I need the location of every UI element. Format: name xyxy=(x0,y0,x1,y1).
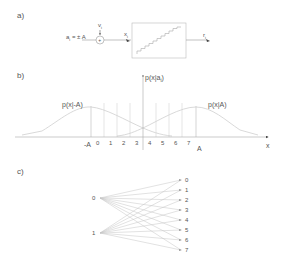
svg-text:ri: ri xyxy=(203,32,206,40)
transition-edges xyxy=(100,180,181,250)
panel-c-label: c) xyxy=(17,167,24,176)
svg-text:p(x|ai): p(x|ai) xyxy=(145,74,164,83)
output-node-5: 5 xyxy=(185,227,189,233)
svg-text:5: 5 xyxy=(161,140,165,146)
svg-text:3: 3 xyxy=(135,140,139,146)
y-axis-arrow-icon xyxy=(142,75,144,77)
svg-text:0: 0 xyxy=(96,140,100,146)
output-nodes: 0 1 2 3 4 5 6 7 xyxy=(185,177,189,253)
svg-text:1: 1 xyxy=(109,140,113,146)
panel-b: b) p(x|ai) p(x|-A) p(x|A) -A A x 0 1 xyxy=(15,71,270,152)
staircase-icon xyxy=(137,27,181,54)
output-label: ri xyxy=(203,32,206,40)
output-node-1: 1 xyxy=(185,187,189,193)
x-label: xi xyxy=(124,31,128,39)
input-node-0: 0 xyxy=(92,195,96,201)
svg-text:2: 2 xyxy=(122,140,126,146)
sum-symbol: + xyxy=(98,37,101,43)
x-axis-label: x xyxy=(266,142,270,149)
curve-p-x-given-A xyxy=(117,107,258,136)
curve-p-x-given-neg-A xyxy=(22,107,172,136)
noise-label: vi xyxy=(98,22,102,30)
panel-a: a) ai = ± A vi + xi ri xyxy=(17,11,210,58)
pos-A-label: A xyxy=(197,145,202,152)
neg-A-label: -A xyxy=(84,141,91,148)
y-axis-label: p(x|ai) xyxy=(145,74,164,83)
panel-b-label: b) xyxy=(17,71,24,80)
output-node-3: 3 xyxy=(185,207,189,213)
svg-text:xi: xi xyxy=(124,31,128,39)
right-curve-label: p(x|A) xyxy=(208,101,227,109)
output-node-2: 2 xyxy=(185,197,189,203)
output-node-0: 0 xyxy=(185,177,189,183)
panel-c: c) 0 1 xyxy=(17,167,189,253)
svg-text:ai = ± A: ai = ± A xyxy=(66,34,86,42)
output-node-6: 6 xyxy=(185,237,189,243)
panel-a-label: a) xyxy=(17,11,24,20)
input-node-1: 1 xyxy=(92,230,96,236)
input-label: ai = ± A xyxy=(66,34,86,42)
output-node-4: 4 xyxy=(185,217,189,223)
output-arrow-icon xyxy=(206,39,210,42)
tick-labels: 0 1 2 3 4 5 6 7 xyxy=(96,140,191,146)
edge-arrowheads-icon xyxy=(179,179,182,251)
svg-text:7: 7 xyxy=(187,140,191,146)
quantizer-block xyxy=(132,23,186,58)
diagram-canvas: a) ai = ± A vi + xi ri b) xyxy=(0,0,285,268)
x-arrow-icon xyxy=(126,39,130,42)
svg-text:4: 4 xyxy=(148,140,152,146)
svg-text:6: 6 xyxy=(174,140,178,146)
svg-text:vi: vi xyxy=(98,22,102,30)
output-node-7: 7 xyxy=(185,247,189,253)
left-curve-label: p(x|-A) xyxy=(62,101,83,109)
